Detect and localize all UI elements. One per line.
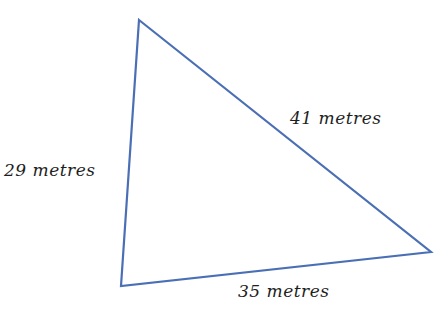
side-label-hypotenuse: 41 metres <box>290 108 381 128</box>
triangle-outline <box>121 20 431 286</box>
side-label-bottom: 35 metres <box>238 281 329 301</box>
triangle-shape <box>0 0 446 310</box>
side-label-left: 29 metres <box>4 160 95 180</box>
triangle-diagram: 29 metres 41 metres 35 metres <box>0 0 446 310</box>
